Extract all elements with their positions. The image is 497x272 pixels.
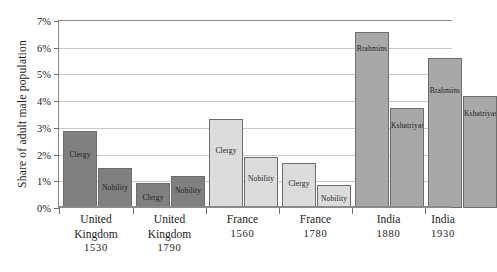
bar-label: Clergy	[64, 150, 96, 159]
bar-label: Nobility	[99, 183, 131, 192]
x-group-line2: Kingdom	[74, 228, 117, 240]
x-group-year: 1880	[352, 227, 425, 242]
x-group-line1: France	[300, 213, 331, 225]
x-group-line1: United	[80, 213, 111, 225]
bar-france1560-clergy[interactable]: Clergy	[209, 119, 243, 208]
y-tick-label: 4%	[37, 96, 51, 107]
x-group-line2: Kingdom	[148, 228, 191, 240]
bar-india1930-brahmins[interactable]: Brahmins	[428, 58, 462, 208]
bar-label: Clergy	[283, 179, 315, 188]
bar-france1780-clergy[interactable]: Clergy	[282, 163, 316, 208]
bar-label: Nobility	[172, 186, 204, 195]
x-group-line1: France	[227, 213, 258, 225]
bar-label: Brahmins	[429, 86, 461, 95]
bar-label: Nobility	[318, 194, 350, 203]
bar-india1880-kshatriyas[interactable]: Kshatriyas	[390, 108, 424, 208]
y-tick-label: 1%	[37, 176, 51, 187]
bar-label: Kshatriyas	[391, 121, 423, 130]
bar-uk1530-clergy[interactable]: Clergy	[63, 131, 97, 208]
y-axis-title: Share of adult male population	[16, 16, 28, 212]
y-tick-label: 3%	[37, 122, 51, 133]
x-group-india-1880: India 1880	[352, 212, 425, 241]
x-group-line1: United	[154, 213, 185, 225]
x-group-india-1930: India 1930	[425, 212, 461, 241]
bar-uk1790-clergy[interactable]: Clergy	[136, 183, 170, 208]
bar-india1880-brahmins[interactable]: Brahmins	[355, 32, 389, 208]
bar-uk1530-nobility[interactable]: Nobility	[98, 168, 132, 208]
x-axis-baseline	[59, 206, 452, 208]
x-group-line1: India	[431, 213, 455, 225]
bar-uk1790-nobility[interactable]: Nobility	[171, 176, 205, 208]
bar-label: Clergy	[137, 193, 169, 202]
plot-area: 7% 6% 5% 4% 3% 2% 1%	[58, 20, 452, 208]
x-group-uk-1790: United Kingdom 1790	[133, 212, 206, 256]
bar-label: Clergy	[210, 146, 242, 155]
bar-label: Nobility	[245, 174, 277, 183]
y-tick-label: 2%	[37, 149, 51, 160]
bar-label: Kshatriyas	[464, 109, 496, 118]
y-tick-label: 0%	[37, 203, 51, 214]
y-tick-label: 5%	[37, 69, 51, 80]
x-group-france-1560: France 1560	[206, 212, 279, 241]
bar-series: Clergy Nobility Clergy Nobility Clergy N…	[59, 21, 452, 208]
x-group-uk-1530: United Kingdom 1530	[59, 212, 133, 256]
bar-france1560-nobility[interactable]: Nobility	[244, 157, 278, 208]
bar-france1780-nobility[interactable]: Nobility	[317, 185, 351, 208]
bar-label: Brahmins	[356, 44, 388, 53]
x-group-year: 1790	[133, 241, 206, 256]
x-group-year: 1930	[425, 227, 461, 242]
y-tick-label: 7%	[37, 16, 51, 27]
y-tick-label: 6%	[37, 42, 51, 53]
x-group-year: 1780	[279, 227, 352, 242]
bar-india1930-kshatriyas[interactable]: Kshatriyas	[463, 96, 497, 208]
x-group-year: 1530	[59, 241, 133, 256]
x-group-france-1780: France 1780	[279, 212, 352, 241]
x-group-line1: India	[377, 213, 401, 225]
x-group-year: 1560	[206, 227, 279, 242]
